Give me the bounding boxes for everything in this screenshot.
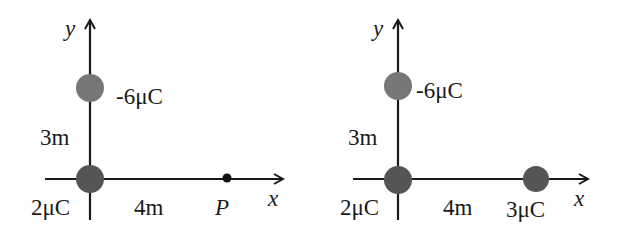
- charge-3uc: [523, 166, 549, 192]
- charge-label-negative-6uc: -6μC: [116, 84, 163, 109]
- charge-label-2uc: 2μC: [340, 195, 379, 220]
- x-axis-label: x: [267, 186, 279, 211]
- charge-negative-6uc: [76, 74, 104, 102]
- charge-label-2uc: 2μC: [31, 195, 70, 220]
- distance-label-4m: 4m: [134, 195, 164, 220]
- distance-label-3m: 3m: [40, 125, 70, 150]
- x-axis-label: x: [573, 186, 585, 211]
- charge-label-3uc: 3μC: [506, 197, 545, 222]
- charge-2uc: [384, 166, 412, 194]
- point-p: [223, 174, 232, 183]
- distance-label-4m: 4m: [443, 195, 473, 220]
- diagram-canvas: y x -6μC 3m 2μC 4m P y x -6μC 3m 2μC 4m …: [0, 0, 621, 242]
- point-p-label: P: [214, 195, 229, 220]
- y-axis-label: y: [371, 16, 384, 41]
- charge-2uc: [76, 165, 104, 193]
- panel-right: y x -6μC 3m 2μC 4m 3μC: [340, 16, 588, 222]
- distance-label-3m: 3m: [348, 125, 378, 150]
- panel-left: y x -6μC 3m 2μC 4m P: [31, 16, 283, 220]
- y-axis-label: y: [63, 16, 76, 41]
- charge-negative-6uc: [384, 72, 412, 100]
- charge-label-negative-6uc: -6μC: [416, 78, 463, 103]
